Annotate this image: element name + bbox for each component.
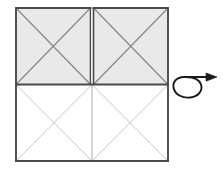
bottom-half-group: [16, 85, 168, 162]
top-split-gap: [91, 8, 94, 85]
flip-over-arrow: [173, 73, 217, 98]
top-half-group: [16, 8, 168, 85]
flip-arrow-head: [206, 73, 217, 81]
diagram-canvas: [0, 0, 223, 173]
folding-diagram: Paper folding diagram with flip arrow: [0, 0, 223, 173]
